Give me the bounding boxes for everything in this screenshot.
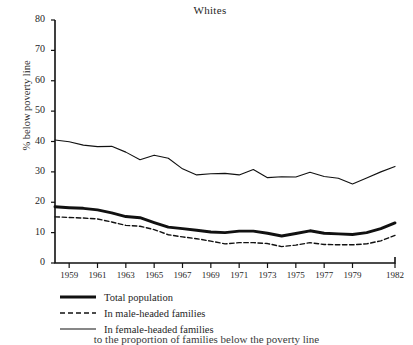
legend-label: In male-headed families bbox=[98, 308, 205, 319]
axis-ticks bbox=[51, 20, 395, 268]
legend-item: Total population bbox=[58, 289, 318, 305]
legend-label: Total population bbox=[98, 292, 173, 303]
thick-solid-line-key bbox=[58, 290, 98, 304]
axis-frame bbox=[55, 20, 395, 263]
dashed-line-key bbox=[58, 306, 98, 320]
data-series-group bbox=[55, 140, 395, 247]
series-line bbox=[55, 140, 395, 184]
page-footer-text: to the proportion of families below the … bbox=[0, 333, 413, 345]
legend-item: In male-headed families bbox=[58, 305, 318, 321]
chart-legend: Total population In male-headed families… bbox=[58, 289, 318, 337]
